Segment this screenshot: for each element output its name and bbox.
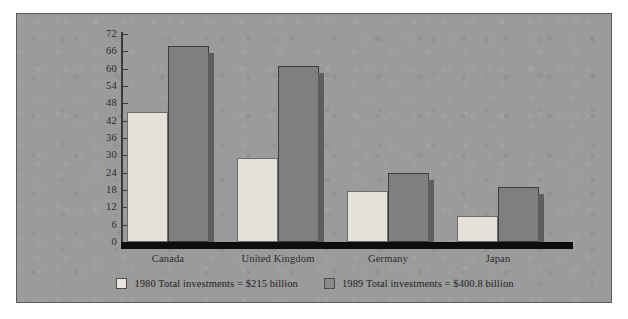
y-tick-value: 24: [91, 168, 117, 178]
category-label-canada: Canada: [115, 253, 221, 265]
y-tick-label: 60: [89, 64, 117, 74]
chart-panel: 061218243036424854606672 CanadaUnited Ki…: [16, 13, 612, 303]
y-tick-value: 66: [91, 46, 117, 56]
category-label-united-kingdom: United Kingdom: [225, 253, 331, 265]
chart-legend: 1980 Total investments = $215 billion 19…: [17, 278, 613, 289]
y-tick-mark: [121, 69, 128, 70]
y-tick-label: 54: [89, 81, 117, 91]
y-tick-label: 48: [89, 98, 117, 108]
bar-1989-united-kingdom: [278, 66, 319, 242]
y-tick-value: 36: [91, 133, 117, 143]
y-tick-label: 6: [89, 220, 117, 230]
bar-1980-japan: [457, 216, 498, 242]
y-tick-mark: [121, 86, 128, 87]
y-tick-label: 36: [89, 133, 117, 143]
category-label-germany: Germany: [335, 253, 441, 265]
bar-1980-germany: [347, 191, 388, 242]
y-tick-value: 12: [91, 202, 117, 212]
y-tick-label: 30: [89, 150, 117, 160]
y-tick-mark: [121, 51, 128, 52]
y-tick-mark: [121, 103, 128, 104]
y-tick-value: 30: [91, 150, 117, 160]
bar-1980-united-kingdom: [237, 158, 278, 242]
legend-item-1980: 1980 Total investments = $215 billion: [116, 278, 298, 289]
y-tick-label: 0: [89, 237, 117, 247]
y-tick-label: 42: [89, 116, 117, 126]
y-tick-value: 18: [91, 185, 117, 195]
y-tick-value: 6: [91, 220, 117, 230]
legend-label-1980: 1980 Total investments = $215 billion: [134, 278, 298, 289]
legend-label-1989: 1989 Total investments = $400.8 billion: [342, 278, 514, 289]
bar-1989-germany: [388, 173, 429, 242]
bar-1980-canada: [127, 112, 168, 242]
x-axis-baseline: [121, 242, 573, 249]
legend-item-1989: 1989 Total investments = $400.8 billion: [324, 278, 514, 289]
category-label-japan: Japan: [445, 253, 551, 265]
y-tick-label: 18: [89, 185, 117, 195]
bar-1989-japan: [498, 187, 539, 242]
y-tick-value: 60: [91, 64, 117, 74]
y-tick-value: 54: [91, 81, 117, 91]
y-tick-value: 48: [91, 98, 117, 108]
figure: 061218243036424854606672 CanadaUnited Ki…: [0, 0, 628, 319]
y-tick-label: 72: [89, 29, 117, 39]
legend-swatch-1989-icon: [324, 278, 335, 289]
y-tick-label: 24: [89, 168, 117, 178]
y-tick-label: 12: [89, 202, 117, 212]
legend-swatch-1980-icon: [116, 278, 127, 289]
y-tick-value: 42: [91, 116, 117, 126]
y-tick-mark: [121, 34, 128, 35]
y-tick-label: 66: [89, 46, 117, 56]
y-tick-value: 72: [91, 29, 117, 39]
y-tick-value: 0: [91, 237, 117, 247]
bar-1989-canada: [168, 46, 209, 242]
plot-area: 061218243036424854606672 CanadaUnited Ki…: [17, 14, 613, 304]
